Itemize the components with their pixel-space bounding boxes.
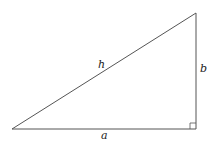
vertical-side-label: b (200, 62, 207, 75)
right-triangle-diagram: h b a (0, 0, 214, 141)
hypotenuse-line (12, 13, 196, 129)
right-angle-marker (190, 123, 196, 129)
base-label: a (101, 129, 108, 141)
hypotenuse-label: h (98, 58, 105, 71)
